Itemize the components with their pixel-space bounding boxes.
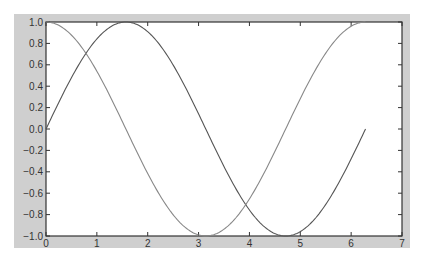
- y-tick-label: 0.6: [29, 59, 43, 70]
- y-tick-label: 0.8: [29, 38, 43, 49]
- x-tick-label: 4: [247, 238, 253, 249]
- y-tick-label: 0.4: [29, 81, 43, 92]
- y-tick-label: −0.6: [23, 188, 43, 199]
- x-tick-label: 7: [399, 238, 405, 249]
- y-tick-label: 0.2: [29, 102, 43, 113]
- y-tick-label: 0.0: [29, 124, 43, 135]
- x-tick-label: 1: [94, 238, 100, 249]
- line-chart: 01234567 1.00.80.60.40.20.0−0.2−0.4−0.6−…: [0, 0, 428, 265]
- plot-area: [46, 22, 402, 236]
- x-tick-label: 3: [196, 238, 202, 249]
- x-tick-label: 2: [145, 238, 151, 249]
- x-tick-label: 0: [43, 238, 49, 249]
- y-tick-label: −0.8: [23, 209, 43, 220]
- y-tick-label: −1.0: [23, 231, 43, 242]
- y-tick-label: 1.0: [29, 17, 43, 28]
- x-tick-label: 6: [348, 238, 354, 249]
- y-tick-label: −0.2: [23, 145, 43, 156]
- y-tick-label: −0.4: [23, 166, 43, 177]
- x-tick-label: 5: [298, 238, 304, 249]
